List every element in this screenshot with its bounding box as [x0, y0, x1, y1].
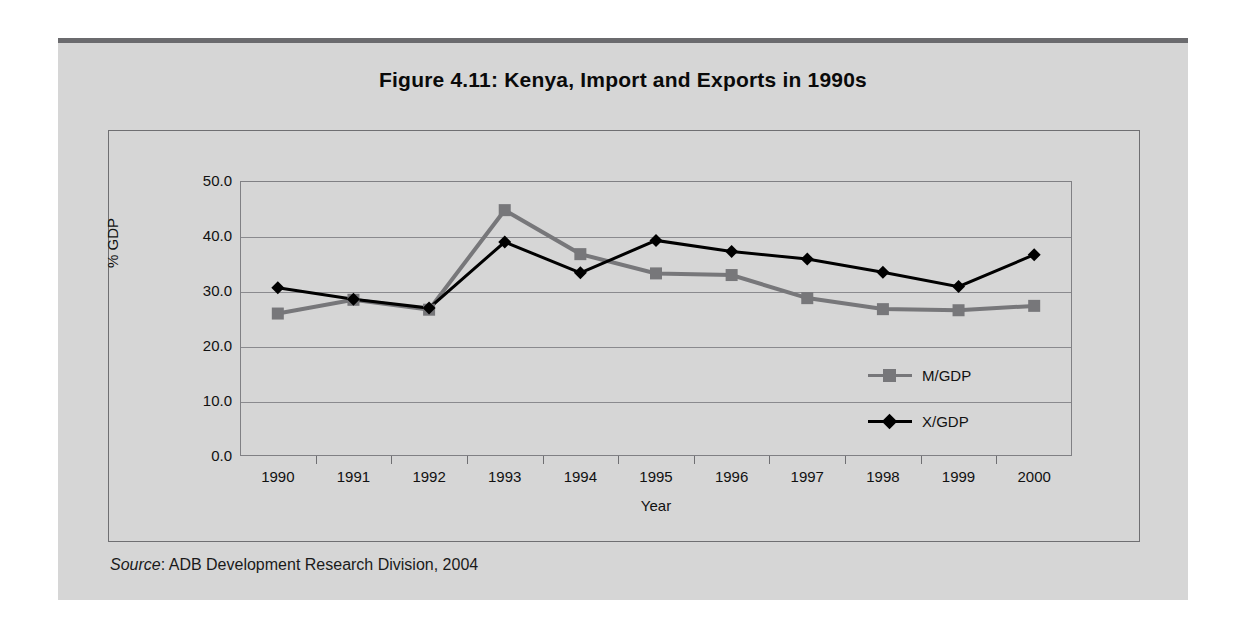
- y-axis-title: % GDP: [104, 218, 121, 268]
- gridline: [241, 292, 1071, 293]
- y-axis-tick-label: 0.0: [150, 447, 232, 464]
- x-axis-tick-label: 1991: [337, 468, 370, 485]
- x-axis-tick-label: 1992: [412, 468, 445, 485]
- source-note: Source: ADB Development Research Divisio…: [110, 556, 478, 574]
- legend-label-imports: M/GDP: [922, 367, 971, 384]
- gridline: [241, 237, 1071, 238]
- x-axis-tick-labels: 1990199119921993199419951996199719981999…: [240, 468, 1072, 492]
- x-axis-tick-label: 1998: [866, 468, 899, 485]
- x-axis-tick-label: 1996: [715, 468, 748, 485]
- x-axis-tick-mark: [769, 456, 770, 464]
- x-axis-tick-mark: [618, 456, 619, 464]
- y-axis-tick-label: 50.0: [150, 172, 232, 189]
- square-marker-icon: [868, 367, 912, 383]
- x-axis-title: Year: [240, 497, 1072, 514]
- diamond-marker-icon: [868, 413, 912, 429]
- page-background: Figure 4.11: Kenya, Import and Exports i…: [0, 0, 1246, 640]
- gridline: [241, 347, 1071, 348]
- source-keyword: Source: [110, 556, 161, 573]
- legend-item-exports[interactable]: X/GDP: [854, 398, 1040, 444]
- x-axis-tick-mark: [921, 456, 922, 464]
- y-axis-tick-label: 10.0: [150, 392, 232, 409]
- y-axis-tick-label: 40.0: [150, 227, 232, 244]
- top-divider-rule: [58, 38, 1188, 43]
- y-axis-tick-labels: 0.010.020.030.040.050.0: [150, 160, 232, 480]
- x-axis-tick-mark: [543, 456, 544, 464]
- x-axis-tick-mark: [996, 456, 997, 464]
- legend-label-exports: X/GDP: [922, 413, 969, 430]
- x-axis-tick-mark: [694, 456, 695, 464]
- y-axis-tick-label: 30.0: [150, 282, 232, 299]
- x-axis-tick-label: 1999: [942, 468, 975, 485]
- x-axis-tick-mark: [467, 456, 468, 464]
- x-axis-tick-label: 1995: [639, 468, 672, 485]
- chart-legend: M/GDP X/GDP: [854, 352, 1040, 444]
- x-axis-tick-mark: [391, 456, 392, 464]
- x-axis-tick-label: 2000: [1017, 468, 1050, 485]
- x-axis-tick-mark: [316, 456, 317, 464]
- x-axis-tick-label: 1997: [791, 468, 824, 485]
- y-axis-tick-label: 20.0: [150, 337, 232, 354]
- x-axis-tick-label: 1990: [261, 468, 294, 485]
- x-axis-tick-mark: [845, 456, 846, 464]
- legend-item-imports[interactable]: M/GDP: [854, 352, 1040, 398]
- x-axis-tick-label: 1993: [488, 468, 521, 485]
- source-text: : ADB Development Research Division, 200…: [161, 556, 479, 573]
- x-axis-tick-label: 1994: [564, 468, 597, 485]
- figure-title: Figure 4.11: Kenya, Import and Exports i…: [58, 68, 1188, 92]
